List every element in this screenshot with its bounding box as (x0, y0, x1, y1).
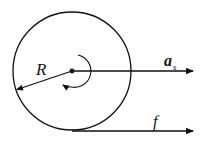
acceleration-symbol: a (164, 52, 172, 69)
radius-label: R (36, 61, 46, 78)
friction-label: f (153, 114, 157, 130)
diagram-canvas (0, 0, 202, 141)
acceleration-subscript: s (173, 62, 177, 72)
wheel-diagram: R as f (0, 0, 202, 141)
acceleration-label: as (164, 53, 176, 69)
